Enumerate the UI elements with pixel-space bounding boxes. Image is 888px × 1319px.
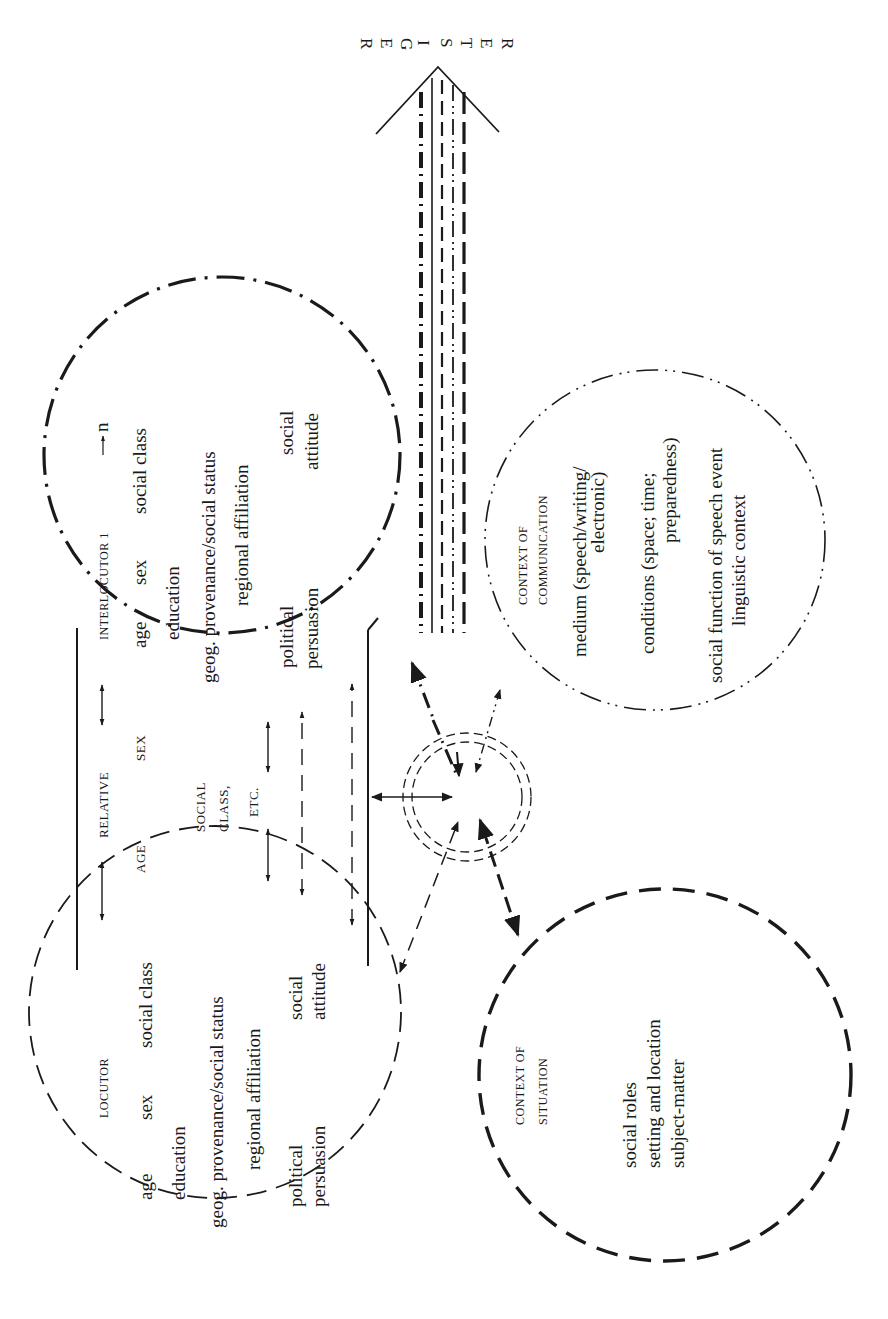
locutor-social: social bbox=[285, 976, 306, 1020]
communication-title-2: COMMUNICATION bbox=[536, 495, 550, 605]
locutor-connector bbox=[400, 822, 458, 972]
interlocutor-geog: geog. provenance/social status bbox=[198, 451, 219, 683]
register-letter: T bbox=[457, 38, 476, 49]
situation-text: CONTEXT OF SITUATION social roles settin… bbox=[513, 1019, 688, 1168]
register-letter: I bbox=[414, 40, 433, 46]
relative-title: RELATIVE bbox=[96, 772, 111, 838]
register-letter: R bbox=[498, 38, 517, 50]
register-letter: R bbox=[357, 38, 376, 50]
interlocutor-political: political bbox=[276, 606, 297, 668]
register-letter: E bbox=[477, 38, 496, 48]
interlocutor-title: INTERLOCUTOR 1 bbox=[97, 532, 111, 640]
locutor-political: political bbox=[285, 1145, 306, 1207]
locutor-regional: regional affiliation bbox=[243, 1028, 264, 1170]
locutor-title: LOCUTOR bbox=[97, 1058, 111, 1118]
interlocutor-social: social bbox=[276, 411, 297, 455]
interlocutor-attitude: attitude bbox=[301, 413, 322, 470]
relative-age: AGE bbox=[133, 845, 148, 873]
relative-frame bbox=[77, 618, 452, 970]
communication-conditions-2: preparedness) bbox=[659, 437, 681, 543]
interlocutor-text: INTERLOCUTOR 1 n age sex social class ed… bbox=[91, 411, 322, 683]
situation-title-1: CONTEXT OF bbox=[513, 1046, 527, 1125]
interlocutor-n: n bbox=[91, 422, 112, 432]
locutor-text: LOCUTOR age sex social class education g… bbox=[97, 962, 329, 1228]
interlocutor-connector bbox=[433, 720, 458, 778]
interlocutor-sex: sex bbox=[129, 559, 150, 585]
communication-connector bbox=[476, 690, 500, 772]
communication-linguistic: linguistic context bbox=[728, 494, 749, 626]
communication-social-function: social function of speech event bbox=[705, 447, 726, 683]
relative-etc: ETC. bbox=[246, 787, 261, 817]
interlocutor-age: age bbox=[129, 622, 150, 648]
locutor-education: education bbox=[168, 1126, 189, 1200]
interlocutor-education: education bbox=[162, 566, 183, 640]
interlocutor-persuasion: persuasion bbox=[301, 587, 322, 669]
locutor-attitude: attitude bbox=[308, 963, 329, 1020]
relative-social: SOCIAL bbox=[193, 782, 208, 832]
situation-title-2: SITUATION bbox=[536, 1058, 550, 1125]
relative-sex: SEX bbox=[133, 735, 148, 761]
situation-circle bbox=[479, 889, 851, 1261]
relative-text: RELATIVE AGE SEX SOCIAL CLASS, ETC. bbox=[96, 735, 261, 873]
relative-class: CLASS, bbox=[216, 785, 231, 832]
communication-text: CONTEXT OF COMMUNICATION medium (speech/… bbox=[516, 437, 749, 683]
register-letter: G bbox=[397, 38, 416, 50]
register-letter: S bbox=[437, 38, 456, 47]
locutor-age: age bbox=[135, 1174, 156, 1200]
interlocutor-regional: regional affiliation bbox=[231, 464, 252, 606]
register-diagram: R E G I S T E R INTERLOCUTOR 1 bbox=[0, 0, 888, 1319]
interlocutor-social-class: social class bbox=[129, 428, 150, 514]
situation-setting: setting and location bbox=[643, 1019, 664, 1168]
locutor-persuasion: persuasion bbox=[308, 1125, 329, 1207]
situation-connector bbox=[480, 820, 518, 935]
communication-conditions: conditions (space; time; bbox=[637, 472, 659, 654]
locutor-geog: geog. provenance/social status bbox=[206, 996, 227, 1228]
locutor-social-class: social class bbox=[135, 962, 156, 1048]
register-arrow bbox=[376, 67, 499, 633]
situation-subject: subject-matter bbox=[667, 1059, 688, 1168]
communication-title-1: CONTEXT OF bbox=[516, 526, 530, 605]
register-arrowhead-icon bbox=[376, 67, 499, 134]
situation-roles: social roles bbox=[619, 1082, 640, 1168]
register-letter: E bbox=[377, 38, 396, 48]
locutor-sex: sex bbox=[135, 1094, 156, 1120]
communication-medium-2: electronic) bbox=[587, 472, 609, 553]
